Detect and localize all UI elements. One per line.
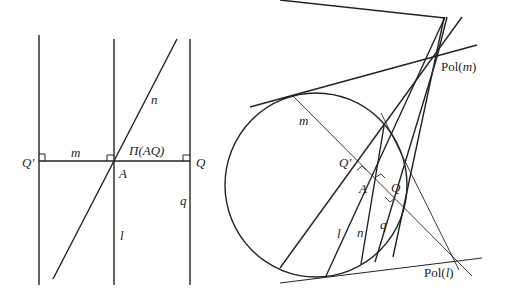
label-l-right: l xyxy=(337,226,341,241)
line-thick-left-chord xyxy=(280,0,445,18)
diagram-canvas: Q' m Π(AQ) Q A n q l Pol(m) Pol(l) m xyxy=(0,0,505,299)
right-angle-marker-a xyxy=(107,155,114,161)
absolute-circle xyxy=(225,93,407,277)
label-q-prime-left: Q' xyxy=(22,155,34,170)
right-angle-marker-a-right xyxy=(376,174,385,178)
label-m-left: m xyxy=(71,145,80,160)
left-panel-euclidean-model xyxy=(39,35,190,285)
label-n-right: n xyxy=(357,225,364,240)
label-pi-aq: Π(AQ) xyxy=(128,143,164,158)
label-pol-l: Pol(l) xyxy=(424,265,454,280)
label-q-prime-right: Q' xyxy=(339,155,351,170)
right-panel-klein-model xyxy=(225,0,482,283)
label-q-right: Q xyxy=(391,180,401,195)
label-l-left: l xyxy=(120,228,124,243)
label-q-small-right: q xyxy=(380,217,387,232)
line-left-chord-through-polm xyxy=(280,17,462,268)
right-angle-marker-q xyxy=(183,155,190,161)
label-pol-m: Pol(m) xyxy=(441,59,476,74)
label-q-left: Q xyxy=(196,155,206,170)
right-angle-marker-q-prime xyxy=(39,154,45,161)
line-tangent-right-through-polm xyxy=(393,18,444,257)
label-n-left: n xyxy=(151,92,158,107)
label-q-small-left: q xyxy=(180,193,187,208)
right-panel-labels: Pol(m) Pol(l) m Q' A Q l n q xyxy=(299,59,476,280)
label-m-right: m xyxy=(299,113,308,128)
label-a-left: A xyxy=(118,166,127,181)
diagram-svg: Q' m Π(AQ) Q A n q l Pol(m) Pol(l) m xyxy=(0,0,505,299)
label-a-right: A xyxy=(358,181,367,196)
tangent-line-top xyxy=(250,45,477,107)
